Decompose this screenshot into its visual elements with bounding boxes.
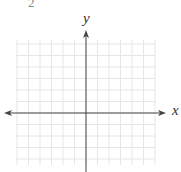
coordinate-plane: 2 y x [0,0,181,172]
y-axis-label: y [83,10,90,27]
grid-svg [0,0,181,172]
x-axis-label: x [172,102,179,119]
